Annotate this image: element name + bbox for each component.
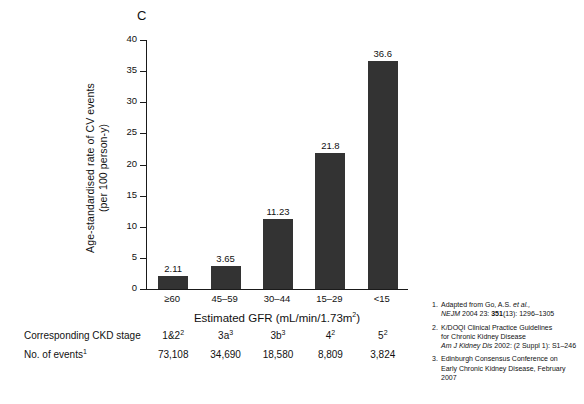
- x-axis-tick-label: 45–59: [195, 293, 255, 304]
- x-axis-tick-label: 15–29: [299, 293, 359, 304]
- x-axis-title: Estimated GFR (mL/min/1.73m2): [146, 312, 408, 324]
- footnote-text: Edinburgh Consensus Conference onEarly C…: [441, 355, 566, 381]
- footnote: 3.Edinburgh Consensus Conference onEarly…: [432, 354, 580, 382]
- table-cell-superscript: 3: [229, 329, 233, 336]
- table-row: No. of events173,10834,69018,5808,8093,8…: [24, 349, 424, 368]
- summary-table: Corresponding CKD stage1&223a33b34252No.…: [24, 330, 424, 368]
- bar-value-label: 21.8: [321, 140, 340, 151]
- x-axis-title-main: Estimated GFR (mL/min/1.73m: [194, 312, 352, 324]
- table-cell: 8,809: [300, 349, 360, 360]
- table-cell: 3,824: [353, 349, 413, 360]
- y-axis-tick: 35: [140, 71, 146, 72]
- bar-value-label: 36.6: [374, 48, 393, 59]
- x-axis-line: [146, 289, 408, 290]
- x-axis-tick-label: 30–44: [247, 293, 307, 304]
- table-cell: 52: [353, 330, 413, 341]
- table-cell: 3b3: [248, 330, 308, 341]
- table-row-label-superscript: 1: [83, 348, 87, 355]
- y-axis-title-line1: Age-standardised rate of CV events: [84, 53, 97, 283]
- y-axis-tick: 5: [140, 258, 146, 259]
- table-cell-superscript: 2: [331, 329, 335, 336]
- y-axis-tick: 10: [140, 227, 146, 228]
- table-row: Corresponding CKD stage1&223a33b34252: [24, 330, 424, 349]
- table-cell: 73,108: [143, 349, 203, 360]
- bar: 11.23: [263, 219, 293, 289]
- x-axis-tick-label: <15: [352, 293, 412, 304]
- bar: 36.6: [368, 61, 398, 289]
- table-cell: 1&22: [143, 330, 203, 341]
- y-axis-tick-label: 15: [126, 189, 137, 200]
- y-axis-tick-label: 0: [132, 282, 137, 293]
- y-axis-tick-label: 30: [126, 95, 137, 106]
- table-cell-superscript: 3: [282, 329, 286, 336]
- x-axis-title-end: ): [356, 312, 360, 324]
- bar: 2.11: [158, 276, 188, 289]
- footnote-text: K/DOQI Clinical Practice Guidelinesfor C…: [441, 324, 576, 350]
- table-cell-superscript: 2: [384, 329, 388, 336]
- y-axis-tick-label: 25: [126, 126, 137, 137]
- table-cell: 18,580: [248, 349, 308, 360]
- y-axis-tick-label: 20: [126, 158, 137, 169]
- y-axis-tick: 30: [140, 102, 146, 103]
- y-axis-tick: 0: [140, 289, 146, 290]
- footnote-number: 2.: [432, 323, 438, 332]
- bar: 3.65: [211, 266, 241, 289]
- table-cell: 3a3: [196, 330, 256, 341]
- footnote-text: Adapted from Go, A.S. et al.,NEJM 2004 2…: [441, 301, 554, 317]
- table-cell-superscript: 2: [180, 329, 184, 336]
- table-row-label: Corresponding CKD stage: [24, 330, 141, 341]
- table-cell: 42: [300, 330, 360, 341]
- plot-area: 0510152025303540 2.113.6511.2321.836.6 ≥…: [146, 40, 408, 290]
- bar: 21.8: [315, 153, 345, 289]
- y-axis-tick-label: 10: [126, 220, 137, 231]
- y-axis-tick: 40: [140, 40, 146, 41]
- bar-value-label: 2.11: [164, 263, 182, 274]
- y-axis-title: Age-standardised rate of CV events (per …: [84, 53, 110, 283]
- y-axis-tick-label: 35: [126, 64, 137, 75]
- y-axis-tick-label: 40: [126, 33, 137, 44]
- y-axis-tick-label: 5: [132, 251, 137, 262]
- table-row-label: No. of events1: [24, 349, 87, 360]
- y-axis-tick: 15: [140, 196, 146, 197]
- footnotes: 1.Adapted from Go, A.S. et al.,NEJM 2004…: [432, 300, 580, 386]
- footnote-number: 3.: [432, 354, 438, 363]
- y-axis-tick: 20: [140, 165, 146, 166]
- footnote-number: 1.: [432, 300, 438, 309]
- y-axis-title-line2: (per 100 person-y): [97, 53, 110, 283]
- footnote: 2.K/DOQI Clinical Practice Guidelinesfor…: [432, 323, 580, 351]
- table-cell: 34,690: [196, 349, 256, 360]
- footnote: 1.Adapted from Go, A.S. et al.,NEJM 2004…: [432, 300, 580, 319]
- y-axis-tick: 25: [140, 133, 146, 134]
- x-axis-tick-label: ≥60: [142, 293, 202, 304]
- bar-series: 2.113.6511.2321.836.6: [147, 40, 408, 289]
- bar-value-label: 3.65: [216, 253, 235, 264]
- bar-value-label: 11.23: [266, 206, 289, 217]
